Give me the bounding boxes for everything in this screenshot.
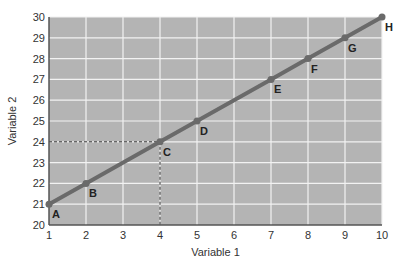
point-label-F: F — [311, 63, 318, 75]
x-tick-label: 4 — [157, 229, 163, 241]
data-point-C — [157, 138, 164, 145]
data-point-F — [305, 55, 312, 62]
point-label-H: H — [385, 21, 393, 33]
data-point-B — [83, 180, 90, 187]
y-tick-label: 23 — [33, 157, 45, 169]
x-tick-label: 8 — [305, 229, 311, 241]
x-tick-label: 9 — [342, 229, 348, 241]
data-point-D — [194, 118, 201, 125]
point-label-A: A — [52, 208, 60, 220]
y-tick-label: 30 — [33, 11, 45, 23]
x-tick-label: 2 — [83, 229, 89, 241]
data-point-H — [379, 14, 386, 21]
x-tick-label: 6 — [231, 229, 237, 241]
x-tick-label: 10 — [376, 229, 388, 241]
y-tick-label: 29 — [33, 32, 45, 44]
data-point-G — [342, 34, 349, 41]
y-tick-label: 26 — [33, 94, 45, 106]
x-tick-label: 1 — [46, 229, 52, 241]
line-chart: 12345678910 2021222324252627282930 ABCDE… — [0, 0, 402, 268]
y-tick-label: 21 — [33, 198, 45, 210]
point-label-B: B — [89, 187, 97, 199]
point-label-G: G — [348, 42, 357, 54]
point-label-E: E — [274, 83, 281, 95]
x-axis-label: Variable 1 — [191, 246, 240, 258]
y-tick-labels: 2021222324252627282930 — [33, 11, 45, 231]
x-tick-label: 7 — [268, 229, 274, 241]
x-tick-label: 5 — [194, 229, 200, 241]
y-tick-label: 27 — [33, 73, 45, 85]
point-label-D: D — [200, 125, 208, 137]
y-tick-label: 28 — [33, 53, 45, 65]
x-tick-labels: 12345678910 — [46, 229, 388, 241]
y-tick-label: 20 — [33, 219, 45, 231]
y-tick-label: 22 — [33, 177, 45, 189]
y-axis-label: Variable 2 — [6, 97, 18, 146]
y-tick-label: 24 — [33, 136, 45, 148]
point-label-C: C — [163, 146, 171, 158]
y-tick-label: 25 — [33, 115, 45, 127]
data-point-A — [46, 201, 53, 208]
data-point-E — [268, 76, 275, 83]
x-tick-label: 3 — [120, 229, 126, 241]
